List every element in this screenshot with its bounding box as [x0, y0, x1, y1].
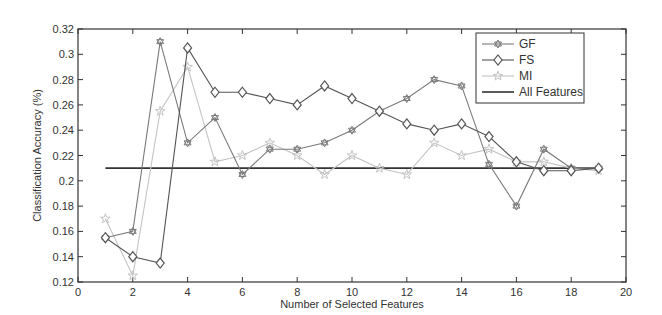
x-tick-label: 6	[239, 286, 245, 298]
diamond-marker	[348, 94, 356, 104]
diamond-marker	[485, 132, 493, 142]
legend-label: MI	[519, 69, 532, 83]
diamond-marker	[595, 163, 603, 173]
legend-label: GF	[519, 37, 536, 51]
diamond-marker	[238, 87, 246, 97]
x-tick-label: 4	[185, 286, 191, 298]
legend: GFFSMIAll Features	[476, 33, 584, 103]
y-tick-label: 0.16	[53, 225, 74, 237]
x-tick-label: 2	[130, 286, 136, 298]
legend-label: All Features	[519, 85, 583, 99]
y-axis-label: Classification Accuracy (%)	[31, 89, 43, 222]
x-tick-label: 14	[455, 286, 467, 298]
x-tick-label: 0	[75, 286, 81, 298]
diamond-marker	[156, 258, 164, 268]
y-tick-label: 0.3	[59, 48, 74, 60]
x-tick-label: 16	[510, 286, 522, 298]
diamond-marker	[430, 125, 438, 135]
y-tick-label: 0.32	[53, 23, 74, 35]
y-tick-label: 0.24	[53, 124, 74, 136]
line-chart: 024681012141618200.120.140.160.180.20.22…	[0, 0, 662, 315]
diamond-marker	[540, 166, 548, 176]
y-tick-label: 0.18	[53, 200, 74, 212]
x-tick-label: 20	[620, 286, 632, 298]
y-tick-label: 0.12	[53, 276, 74, 288]
legend-label: FS	[519, 53, 534, 67]
star-marker	[101, 214, 111, 223]
x-tick-label: 18	[565, 286, 577, 298]
diamond-marker	[101, 233, 109, 243]
y-tick-label: 0.22	[53, 150, 74, 162]
x-tick-label: 12	[401, 286, 413, 298]
diamond-marker	[293, 100, 301, 110]
y-tick-label: 0.14	[53, 251, 74, 263]
y-tick-label: 0.2	[59, 175, 74, 187]
y-tick-label: 0.28	[53, 74, 74, 86]
x-axis-label: Number of Selected Features	[280, 298, 424, 310]
diamond-marker	[321, 81, 329, 91]
x-tick-label: 10	[346, 286, 358, 298]
x-tick-label: 8	[294, 286, 300, 298]
diamond-marker	[375, 106, 383, 116]
diamond-marker	[458, 119, 466, 129]
diamond-marker	[266, 94, 274, 104]
diamond-marker	[403, 119, 411, 129]
y-tick-label: 0.26	[53, 99, 74, 111]
